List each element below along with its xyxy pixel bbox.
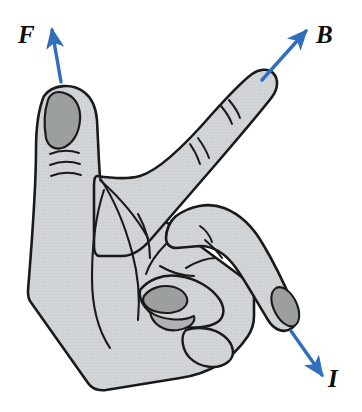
current-vector-label: I [328, 366, 338, 391]
current-arrow [291, 331, 322, 375]
magnetic-field-vector-label: B [316, 22, 333, 47]
hand-illustration [0, 0, 362, 412]
force-arrow [52, 30, 61, 82]
folded-ring-finger-nail [143, 286, 187, 313]
field-arrow [262, 31, 306, 80]
force-vector-label: F [18, 22, 35, 47]
right-hand-rule-figure: F B I [0, 0, 362, 412]
